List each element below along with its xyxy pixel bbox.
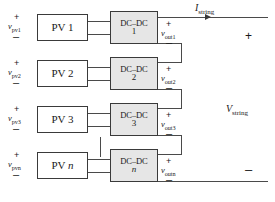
pv1-minus-sign: –: [13, 31, 19, 42]
dcdc-converter-n[interactable]: DC–DC n: [110, 149, 158, 182]
pvn-minus-sign: –: [13, 169, 19, 180]
string-current-label: Istring: [195, 3, 214, 16]
vout2-plus-sign: +: [166, 65, 171, 74]
pv3-bottom-wire: [88, 126, 111, 127]
series-link-3-horizontal: [158, 154, 182, 155]
pvn-top-wire: [88, 159, 111, 160]
string-terminal-minus: –: [245, 163, 252, 176]
pvn-plus-sign: +: [14, 151, 19, 160]
pv-module-n-index: n: [68, 159, 74, 171]
pv-module-n[interactable]: PV n: [37, 152, 88, 179]
pv1-top-wire: [88, 21, 111, 22]
vout1-plus-sign: +: [166, 20, 171, 29]
pv-module-3-label: PV 3: [51, 114, 73, 125]
series-link-3-vertical: [181, 135, 182, 154]
pv3-plus-sign: +: [14, 105, 19, 114]
pv2-top-wire: [88, 67, 111, 68]
dcdc-converter-1[interactable]: DC–DC 1: [110, 11, 158, 44]
series-link-1-horizontal: [158, 62, 182, 63]
pv3-minus-sign: –: [13, 123, 19, 134]
dcdc-converter-2[interactable]: DC–DC 2: [110, 57, 158, 90]
dcdc1-out-plus-wire: [158, 17, 168, 18]
pv-module-n-label: PV: [51, 159, 68, 171]
voutn-minus-sign: –: [166, 174, 172, 185]
vout2-minus-sign: –: [166, 82, 172, 93]
pv-module-2[interactable]: PV 2: [37, 60, 88, 87]
continuation-ellipsis: [100, 137, 101, 157]
series-link-1-vertical: [181, 43, 182, 62]
pv3-top-wire: [88, 113, 111, 114]
vout3-plus-sign: +: [166, 111, 171, 120]
pv-module-3[interactable]: PV 3: [37, 106, 88, 133]
string-voltage-label: Vstring: [226, 104, 248, 117]
pv2-minus-sign: –: [13, 77, 19, 88]
pv-module-1-label: PV 1: [51, 22, 73, 33]
series-link-2-vertical: [181, 89, 182, 108]
series-link-2-horizontal: [158, 108, 182, 109]
dcdc-converter-2-index: 2: [120, 73, 147, 82]
pv2-plus-sign: +: [14, 59, 19, 68]
dcdc-converter-3-index: 3: [120, 119, 147, 128]
vout1-minus-sign: –: [166, 37, 172, 48]
string-terminal-plus: +: [245, 30, 252, 42]
string-top-rail: [168, 17, 268, 18]
pv-module-1[interactable]: PV 1: [37, 14, 88, 41]
pv-string-diagram: + vpv1 – PV 1 DC–DC 1 + vout1 – + vpv2 –…: [0, 0, 275, 202]
dcdc-converter-n-index: n: [120, 165, 147, 174]
pvn-bottom-wire: [88, 172, 111, 173]
dcdc-converter-3[interactable]: DC–DC 3: [110, 103, 158, 136]
pv1-plus-sign: +: [14, 13, 19, 22]
vout3-minus-sign: –: [166, 128, 172, 139]
pv2-bottom-wire: [88, 80, 111, 81]
voutn-plus-sign: +: [166, 157, 171, 166]
string-bottom-rail: [158, 181, 268, 182]
pv-module-2-label: PV 2: [51, 68, 73, 79]
dcdc-converter-1-index: 1: [120, 27, 147, 36]
pv1-bottom-wire: [88, 34, 111, 35]
